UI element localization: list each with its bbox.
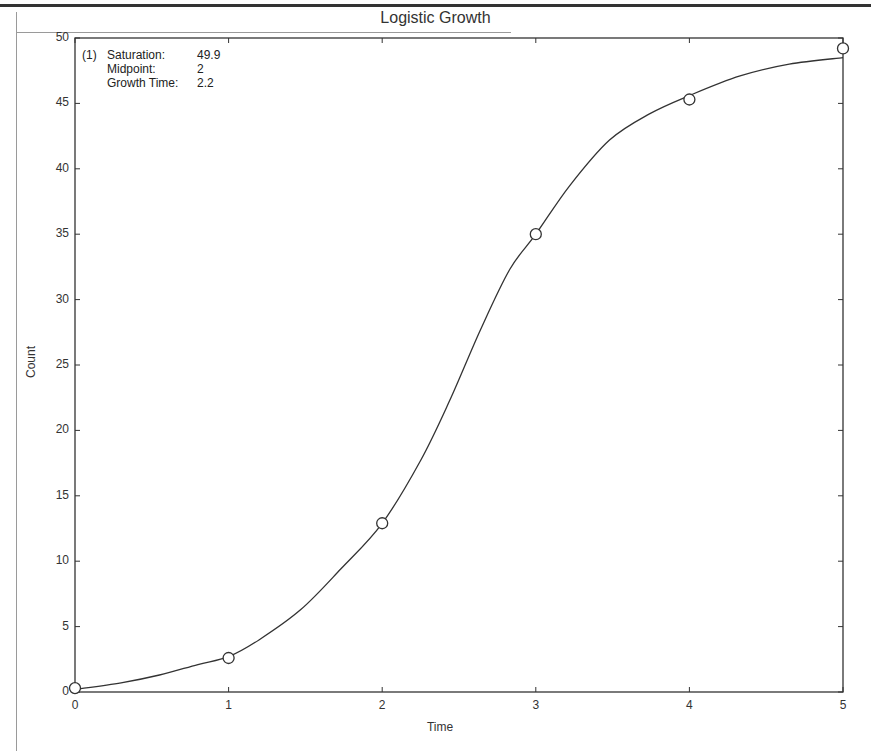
legend-row-saturation: (1)Saturation: 49.9 [82,48,220,62]
plot-frame [75,38,843,692]
y-tick-label: 10 [39,553,69,567]
y-tick-label: 5 [39,619,69,633]
x-tick-label: 1 [225,698,232,712]
y-tick-label: 30 [39,292,69,306]
axes [75,38,843,692]
y-tick-label: 20 [39,422,69,436]
y-tick-label: 35 [39,226,69,240]
x-axis-label: Time [427,720,453,734]
y-tick-label: 45 [39,95,69,109]
y-tick-label: 50 [39,30,69,44]
saturation-label: Saturation: [107,48,165,62]
fit-parameters-legend: (1)Saturation: 49.9 Midpoint: 2 Growth T… [82,48,220,90]
y-tick-label: 0 [39,684,69,698]
y-tick-label: 40 [39,161,69,175]
x-tick-label: 0 [72,698,79,712]
data-markers [70,43,849,694]
x-tick-label: 4 [686,698,693,712]
x-tick-label: 5 [840,698,847,712]
midpoint-label: Midpoint: [107,62,156,76]
data-point-marker [223,652,234,663]
data-point-marker [684,94,695,105]
growth-time-value: 2.2 [197,76,214,90]
data-point-marker [377,518,388,529]
x-tick-label: 3 [532,698,539,712]
growth-time-label: Growth Time: [107,76,178,90]
data-point-marker [70,683,81,694]
y-tick-label: 15 [39,488,69,502]
saturation-value: 49.9 [197,48,220,62]
y-tick-label: 25 [39,357,69,371]
plot-area [0,0,871,751]
legend-row-growth-time: Growth Time: 2.2 [82,76,220,90]
data-point-marker [838,43,849,54]
fit-curve [75,58,843,690]
data-point-marker [530,229,541,240]
series-index: (1) [82,48,107,62]
legend-row-midpoint: Midpoint: 2 [82,62,220,76]
midpoint-value: 2 [197,62,204,76]
x-tick-label: 2 [379,698,386,712]
y-axis-label: Count [24,346,38,378]
